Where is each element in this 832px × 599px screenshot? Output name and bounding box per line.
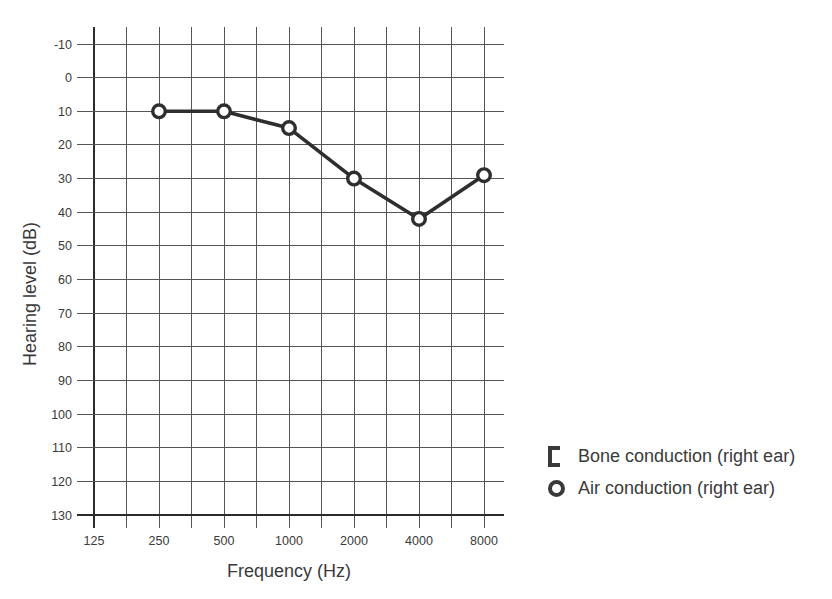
x-tick-label: 250 — [149, 534, 170, 548]
legend-label-air-conduction: Air conduction (right ear) — [578, 478, 775, 499]
air-conduction-circle-icon — [548, 480, 565, 497]
y-tick-label: 100 — [51, 408, 72, 422]
y-tick-label: 120 — [51, 475, 72, 489]
legend: Bone conduction (right ear) Air conducti… — [548, 444, 795, 508]
data-point-marker — [283, 122, 296, 135]
data-point-marker — [413, 213, 426, 226]
y-tick-label: 60 — [58, 273, 72, 287]
audiogram-figure: -100102030405060708090100110120130125250… — [0, 0, 832, 599]
x-tick-label: 500 — [214, 534, 235, 548]
x-tick-label: 2000 — [340, 534, 368, 548]
y-tick-label: 0 — [65, 71, 72, 85]
y-tick-label: 10 — [58, 105, 72, 119]
y-tick-label: 40 — [58, 206, 72, 220]
data-point-marker — [478, 169, 491, 182]
y-tick-label: -10 — [54, 38, 72, 52]
bone-conduction-bracket-icon — [548, 446, 560, 467]
x-tick-label: 4000 — [405, 534, 433, 548]
audiogram-plot: -100102030405060708090100110120130125250… — [0, 0, 832, 599]
y-tick-label: 90 — [58, 374, 72, 388]
data-point-marker — [218, 105, 231, 118]
legend-label-bone-conduction: Bone conduction (right ear) — [578, 446, 795, 467]
data-point-marker — [153, 105, 166, 118]
y-tick-label: 130 — [51, 509, 72, 523]
x-tick-label: 8000 — [470, 534, 498, 548]
y-tick-label: 70 — [58, 307, 72, 321]
y-tick-label: 30 — [58, 172, 72, 186]
legend-row-bone-conduction: Bone conduction (right ear) — [548, 444, 795, 468]
y-axis-title: Hearing level (dB) — [20, 222, 41, 366]
y-tick-label: 110 — [52, 441, 72, 455]
legend-symbol-cell — [548, 480, 568, 497]
data-point-marker — [348, 172, 361, 185]
x-tick-label: 1000 — [275, 534, 303, 548]
legend-row-air-conduction: Air conduction (right ear) — [548, 476, 795, 500]
legend-symbol-cell — [548, 446, 568, 467]
x-tick-label: 125 — [84, 534, 105, 548]
y-tick-label: 80 — [58, 340, 72, 354]
x-axis-title: Frequency (Hz) — [227, 561, 351, 582]
y-tick-label: 20 — [58, 138, 72, 152]
y-tick-label: 50 — [58, 239, 72, 253]
